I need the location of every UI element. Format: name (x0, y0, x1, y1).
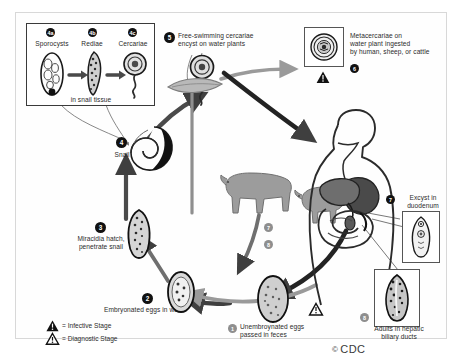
badge-step-7: 7 (386, 195, 395, 204)
unembryonated-egg-illustration (256, 275, 290, 323)
cdc-label: CDC (340, 343, 365, 355)
badge-host-route-7: 7 (264, 223, 273, 232)
sporocyst-illustration (36, 51, 68, 97)
metacercaria-illustration (310, 33, 338, 61)
infective-triangle-icon (46, 320, 59, 332)
label-in-snail-tissue: in snail tissue (46, 96, 136, 104)
badge-step-4: 4 (116, 137, 127, 148)
legend-label-infective: = Infective Stage (62, 322, 111, 329)
label-cercariae: Cercariae (108, 40, 158, 48)
badge-stage-4b: 4b (88, 28, 97, 37)
water-plant-illustration (166, 75, 228, 101)
badge-stage-4c: 4c (128, 28, 137, 37)
diagnostic-triangle-icon (46, 333, 59, 345)
cattle-illustration (218, 163, 296, 217)
label-step-1: Unembroynated eggs passed in feces (240, 323, 340, 339)
badge-step-2: 2 (142, 293, 153, 304)
cercaria-illustration-inset (120, 50, 150, 98)
legend-item-infective: = Infective Stage (46, 319, 118, 332)
label-step-2: Embryonated eggs in water (104, 306, 224, 314)
life-cycle-diagram: 4a Sporocysts 4b Rediae (0, 0, 462, 361)
label-step-7: Excyst in duodenum (398, 194, 448, 210)
label-step-5: Free-swimming cercariae encyst on water … (178, 32, 283, 48)
adult-fluke-illustration (380, 274, 414, 322)
badge-stage-4a: 4a (46, 28, 55, 37)
diagram-plate: 4a Sporocysts 4b Rediae (15, 12, 447, 339)
embryonated-egg-illustration (166, 271, 196, 313)
label-step-6: Metacercariae on water plant ingested by… (350, 32, 456, 57)
miracidium-illustration (124, 209, 154, 259)
legend-item-diagnostic: = Diagnostic Stage (46, 332, 118, 345)
badge-step-5: 5 (164, 32, 175, 43)
legend: = Infective Stage = Diagnostic Stage (46, 319, 118, 345)
badge-host-route-8: 8 (264, 240, 273, 249)
badge-step-6: 6 (350, 64, 359, 73)
cdc-credit: ©CDC (332, 343, 366, 355)
legend-label-diagnostic: = Diagnostic Stage (62, 335, 118, 342)
excysted-fluke-illustration (408, 216, 434, 258)
snail-illustration (128, 125, 174, 173)
badge-step-1: 1 (228, 324, 237, 333)
rediae-illustration (82, 51, 106, 97)
label-step-8: Adults in hepatic biliary ducts (368, 325, 430, 341)
badge-step-8: 8 (360, 313, 369, 322)
badge-step-3: 3 (95, 222, 106, 233)
infective-stage-triangle-metacercariae (316, 71, 330, 84)
copyright-mark: © (332, 345, 338, 354)
